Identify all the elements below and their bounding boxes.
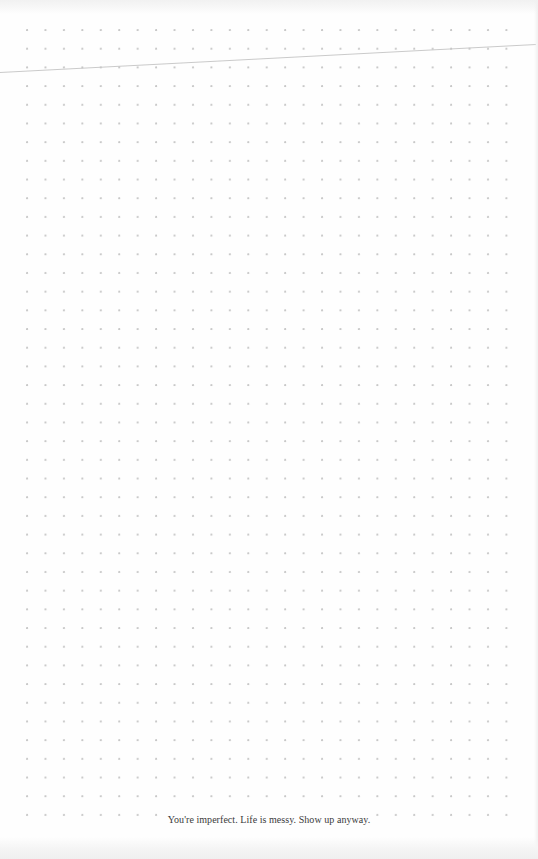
notebook-page: You're imperfect. Life is messy. Show up…	[0, 0, 538, 859]
page-right-edge-shadow	[534, 0, 538, 859]
dot-grid	[26, 29, 510, 824]
page-top-edge-shadow	[0, 0, 538, 14]
footer-quote: You're imperfect. Life is messy. Show up…	[0, 814, 538, 825]
page-bottom-edge-shadow	[0, 837, 538, 859]
